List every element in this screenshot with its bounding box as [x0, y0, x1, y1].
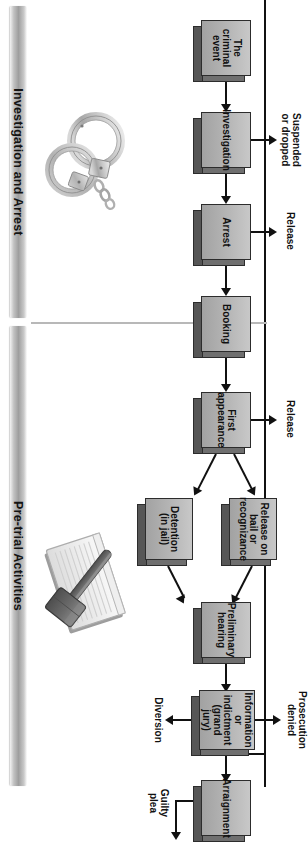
connector-arrest-to-release	[249, 231, 269, 233]
section-label-investigation-and-arrest: Investigation and Arrest	[10, 6, 27, 318]
connector-booking-to-first-appearance	[225, 358, 227, 384]
branch-label-guilty-plea: Guilty plea	[148, 770, 169, 836]
node-label: Booking	[221, 302, 232, 346]
arrowhead-first-appearance-to-release	[269, 415, 277, 425]
node-label: Preliminary hearing	[216, 601, 237, 659]
section-label-text: Pre-trial Activities	[12, 501, 26, 611]
arrowhead-arrest-to-release	[269, 227, 277, 237]
arrowhead-first-appearance-to-detention	[190, 486, 203, 498]
arrowhead-guilty-plea	[171, 832, 181, 840]
criminal-justice-flowchart: Investigation and Arrest Pre-trial Activ…	[0, 0, 279, 843]
gavel-and-notepad-illustration	[37, 526, 133, 646]
connector-first-appearance-to-detention	[197, 454, 217, 491]
connector-indictment-to-prosecution-denied	[255, 719, 273, 721]
arrowhead-indictment-to-diversion	[165, 715, 173, 725]
node-label: Investigation	[221, 107, 232, 173]
connector-release-bail-to-preliminary	[235, 566, 253, 599]
section-label-text: Investigation and Arrest	[12, 88, 26, 235]
node-label: Arraignment	[221, 776, 232, 839]
node-label: Arrest	[221, 215, 232, 248]
arrowhead-investigation-to-arrest	[221, 196, 231, 204]
connector-indictment-to-arraignment	[225, 756, 227, 774]
arrowhead-indictment-to-prosecution-denied	[273, 715, 279, 725]
connector-arrest-to-booking	[225, 266, 227, 288]
handcuffs-illustration	[39, 108, 127, 224]
chart-frame-rule	[264, 0, 266, 787]
arrowhead-investigation-to-suspended	[269, 135, 277, 145]
node-label: Release on bail or recognizance	[237, 495, 269, 563]
arrowhead-detention-to-preliminary	[176, 594, 189, 606]
connector-investigation-to-suspended	[249, 139, 269, 141]
connector-first-appearance-to-release	[249, 419, 269, 421]
node-label: Information or indictment (grand jury)	[201, 691, 254, 750]
connector-first-appearance-to-release-bail	[233, 454, 253, 491]
connector-indictment-to-diversion	[173, 719, 191, 721]
node-label: Detention (in jail)	[159, 504, 180, 554]
connector-detention-to-preliminary	[167, 566, 185, 599]
node-label: The criminal event	[210, 27, 242, 69]
diagram-viewport: Investigation and Arrest Pre-trial Activ…	[0, 0, 279, 843]
connector-arraignment-to-guilty-plea-horizontal	[175, 800, 177, 832]
section-label-pre-trial-activities: Pre-trial Activities	[10, 326, 27, 786]
arrowhead-arrest-to-booking	[221, 288, 231, 296]
connector-preliminary-to-indictment	[225, 664, 227, 684]
connector-investigation-to-arrest	[225, 174, 227, 196]
connector-event-to-investigation	[225, 82, 227, 104]
node-label: First appearance	[216, 390, 237, 450]
branch-label-diversion: Diversion	[153, 684, 164, 756]
